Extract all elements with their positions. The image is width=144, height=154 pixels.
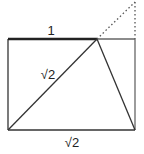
label-bottom-edge: √2 xyxy=(65,135,79,150)
apex-to-bottom-right xyxy=(97,39,135,130)
label-diagonal: √2 xyxy=(41,67,55,82)
geometry-diagram: 1 √2 √2 xyxy=(0,0,144,154)
dotted-extension-diagonal xyxy=(97,2,135,39)
diagonal-sqrt2 xyxy=(8,39,97,130)
label-top-edge: 1 xyxy=(47,23,54,38)
